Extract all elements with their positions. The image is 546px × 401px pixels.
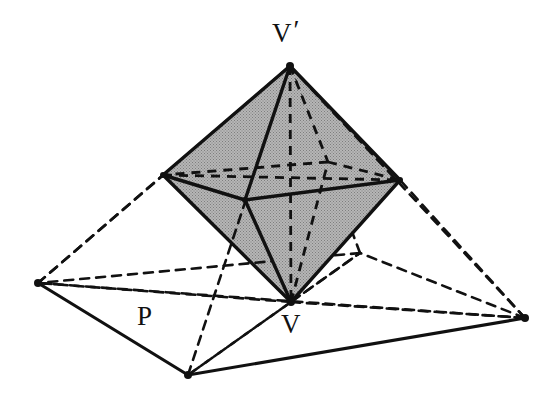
label-v-prime-mark: ′ xyxy=(294,15,300,45)
label-p: P xyxy=(137,303,152,330)
base-edge-front-right xyxy=(188,318,525,375)
label-v: V xyxy=(281,311,301,338)
base-edge-left-front xyxy=(38,283,188,375)
connector-base-right-to-equator-right xyxy=(400,180,525,318)
base-edge-right-back xyxy=(360,253,525,318)
vertex-dot-equator-front xyxy=(242,197,248,203)
figure-canvas: V′ V P xyxy=(0,0,546,401)
vertex-dot-base-right xyxy=(521,314,529,322)
label-v-prime-letter: V xyxy=(272,18,292,48)
vertex-dot-equator-right xyxy=(397,177,403,183)
ray-v-to-base-left xyxy=(38,283,291,302)
vertex-dot-v xyxy=(287,298,295,306)
vertex-dot-v-prime xyxy=(286,62,294,70)
vertex-dot-equator-left xyxy=(160,172,166,178)
octahedron-pyramid-diagram xyxy=(0,0,546,401)
label-v-prime: V′ xyxy=(272,20,297,47)
edge-top-apex-to-bottom-apex xyxy=(290,66,291,302)
vertex-dot-base-front xyxy=(184,371,192,379)
vertex-dot-base-left xyxy=(34,279,42,287)
connector-base-left-to-equator-left xyxy=(38,175,163,283)
